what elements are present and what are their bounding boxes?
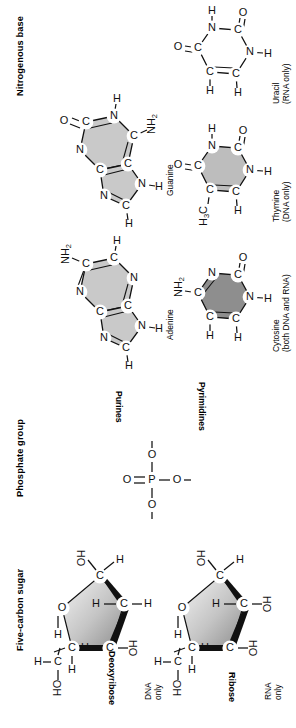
svg-text:N: N	[76, 143, 84, 155]
svg-text:H: H	[212, 597, 220, 609]
svg-text:C: C	[82, 115, 90, 127]
svg-text:N: N	[138, 177, 146, 189]
svg-text:H: H	[54, 628, 62, 640]
svg-text:C: C	[232, 312, 240, 324]
svg-text:C: C	[206, 310, 214, 322]
figure-canvas: Nitrogenous base Phosphate group Five-ca…	[0, 0, 296, 728]
svg-text:NH2: NH2	[145, 114, 159, 134]
svg-text:C: C	[96, 569, 104, 581]
svg-text:O: O	[123, 473, 132, 485]
svg-text:OH: OH	[127, 640, 139, 657]
svg-text:O: O	[148, 448, 157, 460]
svg-text:O: O	[58, 601, 67, 613]
svg-text:OH: OH	[247, 640, 259, 657]
svg-text:C: C	[122, 341, 130, 353]
svg-text:H: H	[144, 597, 152, 609]
svg-text:OH: OH	[261, 596, 273, 613]
caption-uracil: Uracil (RNA only)	[272, 64, 292, 105]
svg-text:H: H	[264, 47, 272, 59]
svg-text:C: C	[124, 299, 132, 311]
svg-text:HO: HO	[171, 679, 183, 696]
svg-text:O: O	[148, 498, 157, 510]
svg-text:H: H	[188, 663, 196, 675]
svg-text:O: O	[174, 40, 183, 52]
svg-text:C: C	[82, 257, 90, 269]
label-deoxyribose: Deoxyribose	[107, 651, 117, 705]
svg-text:C: C	[216, 569, 224, 581]
svg-text:N: N	[246, 163, 254, 175]
svg-text:N: N	[246, 290, 254, 302]
svg-text:N: N	[110, 109, 118, 121]
group-label-purines: Purines	[114, 391, 124, 423]
svg-text:N: N	[208, 21, 216, 33]
svg-text:H: H	[155, 180, 163, 192]
label-ribose: Ribose	[227, 672, 237, 702]
svg-text:H: H	[113, 92, 121, 104]
svg-text:H: H	[154, 655, 162, 667]
svg-text:N: N	[208, 139, 216, 151]
svg-text:C: C	[122, 199, 130, 211]
svg-text:O: O	[239, 6, 248, 18]
svg-text:H: H	[234, 86, 242, 98]
svg-text:H: H	[174, 628, 182, 640]
svg-text:C: C	[120, 597, 128, 609]
svg-text:H: H	[68, 663, 76, 675]
svg-text:H: H	[155, 322, 163, 334]
svg-text:C: C	[234, 268, 242, 280]
svg-text:C: C	[188, 641, 196, 653]
svg-text:H: H	[208, 122, 216, 134]
svg-text:C: C	[194, 286, 202, 298]
structure-cytosine: C N C N C C NH2 O H H H	[168, 255, 278, 367]
svg-text:N: N	[208, 266, 216, 278]
phosphorus-atom-label: P	[148, 473, 155, 485]
svg-text:C: C	[194, 41, 202, 53]
structure-thymine: C N C N C C H O O H H H3C	[168, 128, 278, 240]
svg-text:C: C	[234, 23, 242, 35]
svg-text:H: H	[201, 641, 209, 653]
svg-text:N: N	[130, 271, 138, 283]
svg-text:O: O	[173, 473, 182, 485]
svg-text:O: O	[178, 601, 187, 613]
svg-text:O: O	[239, 124, 248, 136]
svg-text:H: H	[34, 655, 42, 667]
group-label-pyrimidines: Pyrimidines	[197, 382, 207, 431]
svg-text:C: C	[110, 251, 118, 263]
note-ribose-rna-only: RNA only	[264, 682, 284, 700]
svg-text:O: O	[174, 158, 183, 170]
svg-text:H: H	[208, 4, 216, 16]
svg-text:OH: OH	[75, 550, 87, 567]
svg-text:C: C	[226, 641, 234, 653]
svg-text:C: C	[54, 655, 62, 667]
svg-text:N: N	[138, 319, 146, 331]
svg-text:C: C	[206, 65, 214, 77]
svg-text:O: O	[239, 251, 248, 263]
svg-text:HO: HO	[51, 679, 63, 696]
svg-text:C: C	[194, 159, 202, 171]
svg-text:C: C	[96, 305, 104, 317]
svg-text:H: H	[125, 359, 133, 371]
structure-ribose: C C C C O OH H OH H OH	[158, 556, 276, 726]
svg-text:C: C	[232, 185, 240, 197]
svg-text:H: H	[206, 84, 214, 96]
svg-text:NH2: NH2	[59, 244, 73, 264]
svg-text:H: H	[206, 329, 214, 341]
structure-deoxyribose: C C C C O OH H H H OH	[38, 556, 156, 726]
svg-text:OH: OH	[195, 550, 207, 567]
svg-text:H: H	[264, 292, 272, 304]
svg-text:C: C	[124, 157, 132, 169]
svg-text:C: C	[130, 129, 138, 141]
svg-text:H: H	[81, 641, 89, 653]
svg-text:O: O	[60, 114, 69, 126]
structure-guanine: C N C C C N N C N O H NH2 H H	[42, 98, 162, 230]
structure-adenine: C C N C C N N C N NH2 H H H	[42, 240, 162, 372]
section-header-five-carbon-sugar: Five-carbon sugar	[15, 569, 25, 651]
section-header-nitrogenous-base: Nitrogenous base	[15, 16, 25, 96]
svg-text:H3C: H3C	[197, 206, 211, 226]
svg-text:H: H	[125, 217, 133, 229]
svg-text:C: C	[234, 141, 242, 153]
svg-text:H: H	[264, 165, 272, 177]
caption-thymine: Thymine (DNA only)	[272, 182, 292, 223]
svg-text:H: H	[92, 597, 100, 609]
svg-text:N: N	[100, 331, 108, 343]
section-header-phosphate-group: Phosphate group	[15, 419, 25, 497]
